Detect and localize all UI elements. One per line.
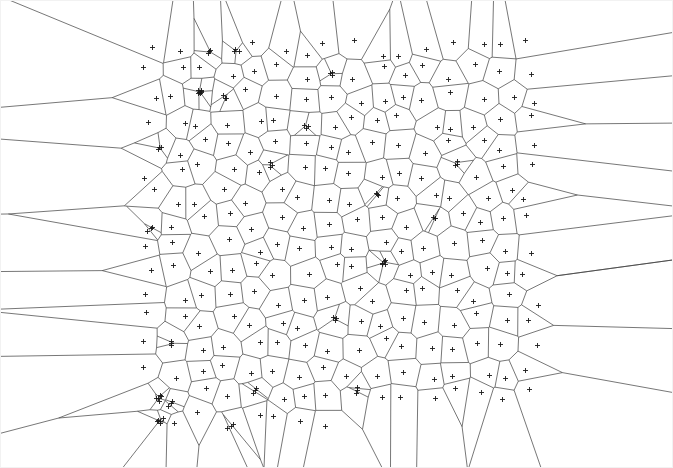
- voronoi-figure: Voronoi tessellation of a dense scattere…: [0, 0, 673, 468]
- voronoi-plot-canvas: [1, 1, 673, 468]
